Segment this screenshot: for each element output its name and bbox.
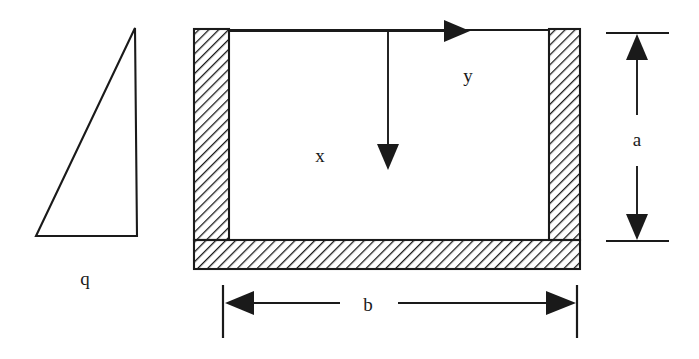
engineering-diagram: q y [0, 0, 699, 359]
dimension-a-label: a [633, 129, 642, 150]
axis-y-arrowhead [444, 20, 470, 42]
dimension-b-right-arrowhead [546, 291, 576, 315]
load-triangle-label: q [80, 268, 90, 289]
channel-right-wall [549, 29, 580, 240]
axis-x-label: x [315, 145, 325, 166]
channel-bottom-flange [194, 240, 580, 269]
axis-y-label: y [463, 65, 473, 86]
load-triangle-shape [36, 28, 137, 236]
dimension-b-left-arrowhead [225, 291, 254, 315]
figure-canvas: q y [0, 0, 699, 359]
dimension-a-up-arrowhead [626, 34, 648, 60]
load-triangle-group: q [36, 28, 137, 289]
dimension-b-group: b [223, 285, 577, 338]
dimension-b-label: b [363, 294, 373, 315]
axis-x-arrowhead [377, 144, 399, 170]
dimension-a-down-arrowhead [626, 214, 648, 240]
dimension-a-group: a [606, 33, 669, 241]
channel-left-wall [194, 29, 229, 240]
coordinate-axes-group: y x [229, 20, 473, 170]
